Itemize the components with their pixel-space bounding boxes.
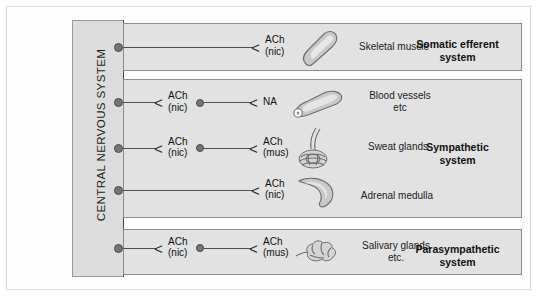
somatic-system-title-line2: system (439, 51, 475, 63)
sympathetic-post-transmitter-label-1: NA (263, 96, 277, 108)
blood-vessel-icon (290, 87, 346, 119)
sympathetic-preganglionic-soma-1 (114, 98, 123, 107)
parasympathetic-ganglionic-synapse-icon: < (154, 241, 163, 256)
sympathetic-adrenal-axon (123, 190, 254, 191)
parasympathetic-preganglionic-soma (114, 244, 123, 253)
sympathetic-pre-transmitter-receptor-2: (nic) (168, 147, 187, 158)
sympathetic-preganglionic-axon-2 (123, 148, 157, 149)
parasympathetic-ganglion-cell (196, 244, 204, 252)
sympathetic-post-transmitter-receptor-2: (mus) (263, 147, 289, 158)
somatic-system-title: Somatic efferent system (400, 38, 515, 63)
sympathetic-transmitter-name-3: ACh (265, 178, 284, 189)
parasympathetic-post-transmitter-label: ACh (mus) (263, 236, 289, 259)
sympathetic-pre-transmitter-label-2: ACh (nic) (168, 136, 187, 159)
somatic-transmitter-name: ACh (265, 34, 284, 45)
parasympathetic-postganglionic-axon (204, 248, 252, 249)
sympathetic-ganglionic-synapse-icon-1: < (154, 95, 163, 110)
sympathetic-ganglion-cell-1 (196, 99, 204, 107)
sympathetic-preganglionic-soma-2 (114, 144, 123, 153)
somatic-neuromuscular-junction-icon: < (251, 40, 260, 55)
sympathetic-effector-junction-icon-1: < (249, 95, 258, 110)
sympathetic-postganglionic-axon-2 (204, 148, 252, 149)
sympathetic-ganglion-cell-2 (196, 144, 204, 152)
somatic-transmitter-receptor: (nic) (265, 46, 284, 57)
sympathetic-post-transmitter-name-1: NA (263, 96, 277, 107)
somatic-motor-neuron-soma (114, 43, 123, 52)
parasympathetic-system-title-line1: Parasympathetic (415, 243, 499, 255)
sympathetic-post-transmitter-label-2: ACh (mus) (263, 136, 289, 159)
sympathetic-target-label-1: Blood vessels etc (344, 90, 456, 114)
sympathetic-effector-junction-icon-2: < (249, 141, 258, 156)
sympathetic-target-line1-3: Adrenal medulla (361, 190, 433, 201)
sympathetic-target-line1-1: Blood vessels (369, 90, 431, 101)
salivary-gland-icon (294, 237, 342, 267)
sympathetic-post-transmitter-name-2: ACh (263, 136, 282, 147)
sympathetic-system-title-line1: Sympathetic (426, 141, 488, 153)
sympathetic-target-line2-1: etc (393, 102, 406, 113)
adrenal-medulla-icon (296, 176, 342, 210)
parasympathetic-system-title-line2: system (439, 256, 475, 268)
parasympathetic-pre-transmitter-receptor: (nic) (168, 247, 187, 258)
sweat-gland-icon (296, 126, 342, 176)
sympathetic-preganglionic-axon-1 (123, 102, 157, 103)
sympathetic-preganglionic-soma-3 (114, 186, 123, 195)
sympathetic-pre-transmitter-receptor-1: (nic) (168, 102, 187, 113)
sympathetic-pre-transmitter-label-1: ACh (nic) (168, 90, 187, 113)
parasympathetic-post-transmitter-name: ACh (263, 236, 282, 247)
sympathetic-system-title: Sympathetic system (400, 141, 515, 166)
sympathetic-pre-transmitter-name-1: ACh (168, 90, 187, 101)
skeletal-muscle-icon (298, 28, 340, 68)
somatic-motor-axon (123, 47, 254, 48)
sympathetic-system-title-line2: system (439, 154, 475, 166)
sympathetic-pre-transmitter-name-2: ACh (168, 136, 187, 147)
autonomic-nervous-system-diagram: CENTRAL NERVOUS SYSTEM < ACh (nic) Skele… (0, 0, 538, 297)
cns-label: CENTRAL NERVOUS SYSTEM (95, 13, 107, 258)
sympathetic-ganglionic-synapse-icon-2: < (154, 141, 163, 156)
parasympathetic-pre-transmitter-label: ACh (nic) (168, 236, 187, 259)
parasympathetic-preganglionic-axon (123, 248, 157, 249)
sympathetic-transmitter-label-3: ACh (nic) (265, 178, 284, 201)
parasympathetic-effector-junction-icon: < (249, 241, 258, 256)
sympathetic-postganglionic-axon-1 (204, 102, 252, 103)
parasympathetic-post-transmitter-receptor: (mus) (263, 247, 289, 258)
sympathetic-adrenal-synapse-icon: < (251, 183, 260, 198)
sympathetic-target-label-3: Adrenal medulla (341, 190, 453, 202)
sympathetic-transmitter-receptor-3: (nic) (265, 189, 284, 200)
parasympathetic-system-title: Parasympathetic system (400, 243, 515, 268)
somatic-transmitter-label: ACh (nic) (265, 34, 284, 57)
parasympathetic-pre-transmitter-name: ACh (168, 236, 187, 247)
somatic-system-title-line1: Somatic efferent (416, 38, 498, 50)
